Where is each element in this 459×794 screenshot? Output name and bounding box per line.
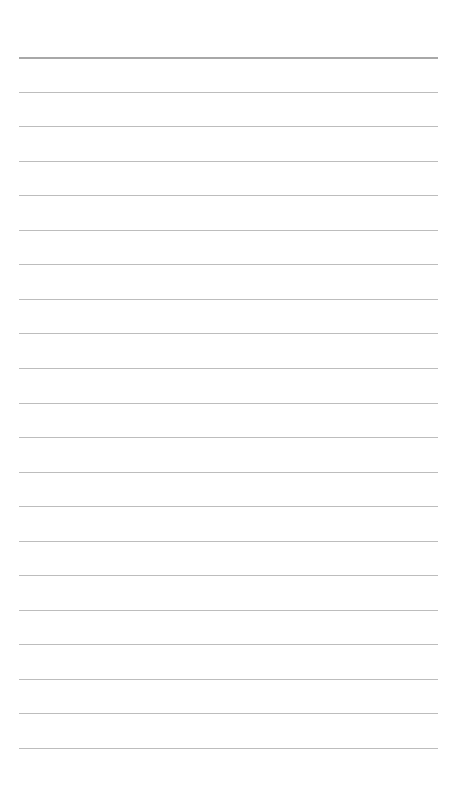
- rule-line: [19, 679, 438, 680]
- rule-line: [19, 92, 438, 93]
- rule-line: [19, 506, 438, 507]
- lined-page: [0, 0, 459, 794]
- rule-line: [19, 161, 438, 162]
- rule-line: [19, 575, 438, 576]
- rule-line: [19, 748, 438, 749]
- rule-line: [19, 299, 438, 300]
- rule-line: [19, 713, 438, 714]
- rule-line: [19, 368, 438, 369]
- rule-line: [19, 230, 438, 231]
- rule-line: [19, 264, 438, 265]
- rule-line: [19, 437, 438, 438]
- top-rule-line: [19, 57, 438, 59]
- rule-line: [19, 472, 438, 473]
- rule-line: [19, 126, 438, 127]
- rule-line: [19, 644, 438, 645]
- rule-line: [19, 610, 438, 611]
- rule-line: [19, 541, 438, 542]
- rule-line: [19, 403, 438, 404]
- rule-line: [19, 195, 438, 196]
- rule-line: [19, 333, 438, 334]
